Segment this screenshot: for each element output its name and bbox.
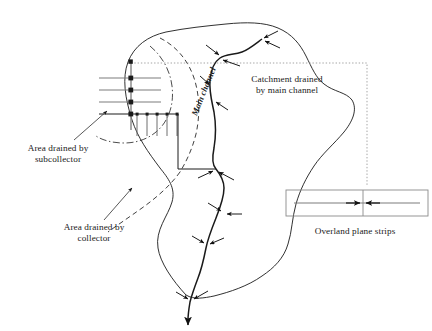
label-area-drained-by-subcollector: Area drained by subcollector <box>6 143 110 165</box>
subcollector-boundary <box>96 46 173 143</box>
label-catchment-drained-by-main-channel: Catchment drained by main channel <box>232 74 342 96</box>
label-area-drained-by-collector: Area drained by collector <box>42 222 146 244</box>
diagram-canvas: Area drained by subcollector Area draine… <box>0 0 432 331</box>
label-overland-plane-strips: Overland plane strips <box>296 226 414 237</box>
overland-plane-strips <box>286 190 428 216</box>
collector-boundary <box>108 38 199 232</box>
catchment-boundary <box>125 23 355 298</box>
leader-lines <box>74 111 132 220</box>
